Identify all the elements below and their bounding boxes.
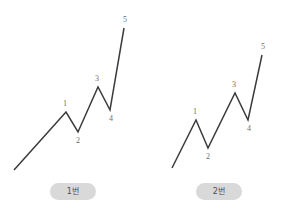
wave-comparison-figure: 12345 1번 12345 2번 xyxy=(0,0,292,224)
wave-polyline-2 xyxy=(172,55,262,168)
wave-point-label-4: 4 xyxy=(247,124,251,133)
wave-point-labels-2: 12345 xyxy=(193,42,265,161)
wave-point-label-3: 3 xyxy=(232,80,236,89)
caption-row-2: 2번 xyxy=(146,183,292,200)
wave-point-label-2: 2 xyxy=(206,152,210,161)
caption-pill-2: 2번 xyxy=(196,183,242,200)
wave-chart-1: 12345 xyxy=(0,0,146,182)
wave-point-label-3: 3 xyxy=(95,74,99,83)
wave-point-label-4: 4 xyxy=(109,114,113,123)
wave-point-label-1: 1 xyxy=(193,107,197,116)
wave-point-label-1: 1 xyxy=(63,99,67,108)
wave-diagram-panel-1: 12345 1번 xyxy=(0,0,146,224)
caption-row-1: 1번 xyxy=(0,183,146,200)
wave-point-label-5: 5 xyxy=(261,42,265,51)
wave-point-label-5: 5 xyxy=(123,15,127,24)
wave-chart-2: 12345 xyxy=(146,0,292,182)
wave-point-labels-1: 12345 xyxy=(63,15,127,145)
caption-pill-1: 1번 xyxy=(50,183,96,200)
wave-diagram-panel-2: 12345 2번 xyxy=(146,0,292,224)
wave-point-label-2: 2 xyxy=(76,136,80,145)
wave-polyline-1 xyxy=(14,28,124,170)
